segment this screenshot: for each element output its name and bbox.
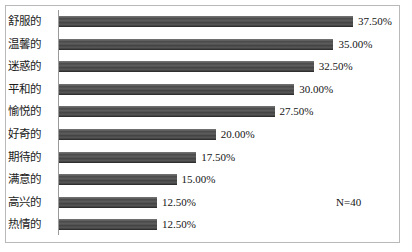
bar[interactable] <box>59 84 294 95</box>
chart-frame: 舒服的37.50%温馨的35.00%迷惑的32.50%平和的30.00%愉悦的2… <box>5 5 400 243</box>
bar-value-label: 12.50% <box>162 213 196 236</box>
category-label: 期待的 <box>8 146 54 169</box>
bar-row: 好奇的20.00% <box>6 123 399 146</box>
category-label: 热情的 <box>8 213 54 236</box>
category-label: 愉悦的 <box>8 100 54 123</box>
category-label: 迷惑的 <box>8 55 54 78</box>
sample-size-annotation: N=40 <box>336 196 361 208</box>
bar-track: 15.00% <box>59 168 399 191</box>
bar[interactable] <box>59 106 275 117</box>
bar[interactable] <box>59 174 177 185</box>
bar-value-label: 32.50% <box>319 55 353 78</box>
bar-track: 12.50% <box>59 213 399 236</box>
category-label: 满意的 <box>8 168 54 191</box>
category-label: 好奇的 <box>8 123 54 146</box>
bar-row: 温馨的35.00% <box>6 33 399 56</box>
bar-row: 满意的15.00% <box>6 168 399 191</box>
bar-value-label: 30.00% <box>299 78 333 101</box>
bar[interactable] <box>59 16 353 27</box>
bar[interactable] <box>59 152 196 163</box>
bar-value-label: 12.50% <box>162 191 196 214</box>
bar-track: 27.50% <box>59 100 399 123</box>
bar[interactable] <box>59 197 157 208</box>
bar-row: 平和的30.00% <box>6 78 399 101</box>
bar-value-label: 27.50% <box>280 100 314 123</box>
bar-row: 舒服的37.50% <box>6 10 399 33</box>
bar-value-label: 37.50% <box>358 10 392 33</box>
bar[interactable] <box>59 61 314 72</box>
bar[interactable] <box>59 219 157 230</box>
bar-track: 17.50% <box>59 146 399 169</box>
category-label: 高兴的 <box>8 191 54 214</box>
bar-row: 愉悦的27.50% <box>6 100 399 123</box>
category-label: 平和的 <box>8 78 54 101</box>
bar-track: 32.50% <box>59 55 399 78</box>
bar-track: 35.00% <box>59 33 399 56</box>
bar-track: 30.00% <box>59 78 399 101</box>
bar-track: 37.50% <box>59 10 399 33</box>
plot-area: 舒服的37.50%温馨的35.00%迷惑的32.50%平和的30.00%愉悦的2… <box>6 6 399 242</box>
bar-value-label: 15.00% <box>182 168 216 191</box>
bar-value-label: 20.00% <box>221 123 255 146</box>
bar[interactable] <box>59 129 216 140</box>
bar-row: 迷惑的32.50% <box>6 55 399 78</box>
bar-track: 20.00% <box>59 123 399 146</box>
bar-value-label: 35.00% <box>338 33 372 56</box>
bar-row: 期待的17.50% <box>6 146 399 169</box>
bar-row: 热情的12.50% <box>6 213 399 236</box>
bar-value-label: 17.50% <box>201 146 235 169</box>
category-label: 舒服的 <box>8 10 54 33</box>
bar[interactable] <box>59 39 333 50</box>
category-label: 温馨的 <box>8 33 54 56</box>
